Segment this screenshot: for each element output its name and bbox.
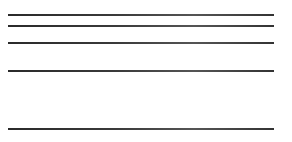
- horizontal-rule-3: [8, 42, 274, 44]
- horizontal-rule-4: [8, 70, 274, 72]
- horizontal-rule-1: [8, 14, 274, 16]
- horizontal-rule-5: [8, 128, 274, 130]
- horizontal-rule-2: [8, 25, 274, 27]
